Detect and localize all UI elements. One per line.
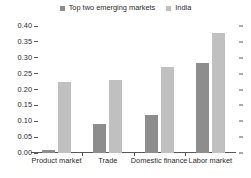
y-axis-tick-label-7: 0.35 [18,38,32,46]
legend-swatch-icon-1 [166,6,171,11]
bar-3-1 [212,33,225,153]
bar-1-1 [109,80,122,153]
y-axis-tick-7: 0.35 [18,38,31,46]
y-axis-tick-6: 0.30 [18,54,31,62]
y-axis-tick-0: 0.00 [18,149,31,157]
y-axis-tick-mark-3 [34,105,38,106]
y-axis-right-tick-mark-6 [239,57,243,58]
y-axis-tick-3: 0.15 [18,101,31,109]
y-axis-tick-label-1: 0.05 [18,133,32,141]
x-axis-label-1: Trade [98,156,117,165]
y-axis-tick-label-5: 0.25 [18,70,32,78]
legend-swatch-icon-0 [60,6,65,11]
y-axis-right-tick-mark-5 [239,73,243,74]
x-axis-labels: Product marketTradeDomestic financeLabor… [31,156,236,170]
bar-chart: Top two emerging marketsIndia 0.000.050.… [0,0,251,178]
y-axis-right-tick-mark-8 [239,26,243,27]
y-axis-tick-mark-7 [34,41,38,42]
y-axis-tick-8: 0.40 [18,22,31,30]
y-axis-tick-label-0: 0.00 [18,149,32,157]
y-axis-tick-label-8: 0.40 [18,22,32,30]
y-axis-right-tick-mark-7 [239,41,243,42]
legend-item-0: Top two emerging markets [60,4,156,12]
legend-label-0: Top two emerging markets [69,4,156,12]
bar-3-0 [196,63,209,153]
y-axis-right-tick-mark-2 [239,121,243,122]
y-axis-tick-mark-2 [34,121,38,122]
y-axis-tick-mark-6 [34,57,38,58]
plot-area: 0.000.050.100.150.200.250.300.350.40 [31,26,236,153]
y-axis-tick-label-3: 0.15 [18,101,32,109]
x-axis-label-0: Product market [32,156,82,165]
y-axis-tick-1: 0.05 [18,133,31,141]
y-axis-tick-2: 0.10 [18,117,31,125]
y-axis-tick-5: 0.25 [18,70,31,78]
y-axis-tick-label-6: 0.30 [18,54,32,62]
bar-2-1 [161,67,174,153]
bar-0-0 [42,150,55,153]
bar-2-0 [145,115,158,153]
y-axis-right-tick-mark-4 [239,89,243,90]
y-axis-tick-mark-0 [34,153,38,154]
legend-item-1: India [166,4,191,12]
y-axis-right-tick-mark-0 [239,153,243,154]
y-axis-tick-mark-1 [34,137,38,138]
y-axis-tick-label-2: 0.10 [18,117,32,125]
bar-0-1 [58,82,71,153]
y-axis-tick-4: 0.20 [18,86,31,94]
y-axis-tick-mark-5 [34,73,38,74]
legend-label-1: India [175,4,191,12]
y-axis-tick-mark-4 [34,89,38,90]
x-axis-label-3: Labor market [189,156,233,165]
y-axis-tick-mark-8 [34,26,38,27]
y-axis-tick-label-4: 0.20 [18,86,32,94]
y-axis-right-tick-mark-1 [239,137,243,138]
x-axis-label-2: Domestic finance [131,156,188,165]
y-axis-right-tick-mark-3 [239,105,243,106]
chart-legend: Top two emerging marketsIndia [0,4,251,12]
bar-1-0 [93,124,106,153]
